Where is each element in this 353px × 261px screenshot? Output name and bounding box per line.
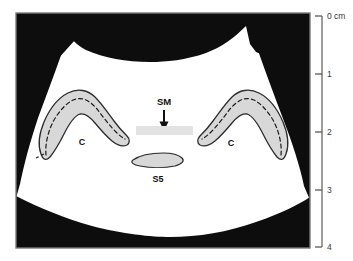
ruler-label-4: 4 — [327, 242, 332, 252]
ruler-label-2: 2 — [327, 127, 332, 137]
depth-ruler-icon: 0 cm 1 2 3 4 — [315, 11, 345, 252]
ultrasound-figure: C C SM S5 — [0, 0, 353, 261]
cartilage-right-label: C — [228, 138, 235, 148]
s5-label: S5 — [152, 174, 163, 184]
ruler-label-3: 3 — [327, 185, 332, 195]
submandibular-label: SM — [157, 96, 171, 107]
ruler-label-1: 1 — [327, 69, 332, 79]
cartilage-left-label: C — [79, 137, 86, 147]
ultrasound-schematic-canvas: C C SM S5 — [0, 0, 353, 261]
ruler-label-0: 0 cm — [327, 11, 345, 21]
submandibular-band — [136, 126, 193, 135]
